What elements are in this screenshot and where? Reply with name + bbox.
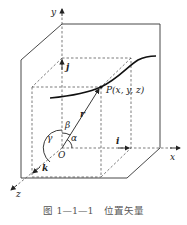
unit-vector-k [33,167,40,173]
z-axis [16,148,62,186]
angle-beta-arc [62,133,70,135]
box-bottom-right-slant [101,148,131,177]
point-p [99,85,102,88]
point-p-label: P(x, y, z) [105,85,145,95]
angle-gamma-label: γ [47,133,53,143]
z-axis-label: z [15,189,21,199]
x-axis-label: x [170,152,175,162]
origin-label: O [58,150,66,160]
position-vector-diagram: y x z O P(x, y, z) j i k r α β γ [0,0,187,225]
unit-vector-i-label: i [116,136,120,146]
box-right-slant [101,58,131,87]
unit-vector-k-label: k [42,163,48,173]
angle-alpha-label: α [71,133,77,143]
angle-beta-label: β [64,120,70,130]
unit-vector-j-label: j [64,62,70,72]
y-axis-label: y [50,7,57,17]
figure-caption: 图 1—1—1 位置矢量 [0,203,187,217]
left-plane-outline [21,24,62,178]
box-left-slant [32,58,62,87]
